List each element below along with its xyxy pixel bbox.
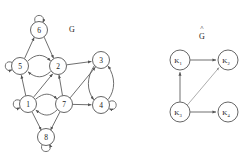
edge-7-to-2 <box>59 75 63 96</box>
left-graph-title: G <box>69 25 75 34</box>
figure-canvas: 6 5 2 3 1 7 4 8 G <box>0 0 250 161</box>
edge-5-to-6 <box>25 37 35 58</box>
node-6-label: 6 <box>37 26 41 35</box>
edge-1-to-2 <box>34 74 53 97</box>
node-2-label: 2 <box>56 62 60 71</box>
edge-7-to-3 <box>70 67 95 98</box>
node-4-label: 4 <box>99 101 103 110</box>
edge-2-to-3 <box>67 62 92 65</box>
edge-1-to-5 <box>21 75 26 96</box>
node-3-label: 3 <box>99 56 103 65</box>
right-graph-group: K1 K2 K3 K4 ^ G <box>170 24 238 122</box>
edge-7-to-1 <box>36 110 57 115</box>
edge-6-to-2 <box>44 37 53 58</box>
node-1-label: 1 <box>26 100 30 109</box>
node-5-label: 5 <box>18 62 22 71</box>
graph-diagram-svg: 6 5 2 3 1 7 4 8 G <box>0 0 250 161</box>
self-loop-node-4 <box>109 101 116 110</box>
edge-1-to-8 <box>32 112 41 130</box>
node-7-label: 7 <box>62 100 66 109</box>
edge-7-to-8 <box>51 112 61 130</box>
right-graph-title: G <box>199 32 205 41</box>
edge-5-to-2 <box>28 55 51 61</box>
edge-2-to-5 <box>28 72 51 77</box>
edge-K3-to-K2 <box>187 68 219 105</box>
edge-3-to-4 <box>88 66 94 100</box>
edge-1-to-7 <box>36 94 58 99</box>
left-graph-group: 6 5 2 3 1 7 4 8 G <box>5 15 116 151</box>
edge-4-to-3 <box>108 66 114 100</box>
node-8-label: 8 <box>44 133 48 142</box>
